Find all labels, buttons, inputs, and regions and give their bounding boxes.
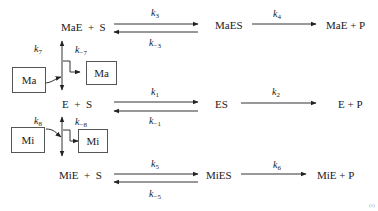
rate-k-7: k−7	[75, 44, 87, 59]
arrow-Mi-in	[46, 129, 61, 137]
rate-k1: k1	[151, 86, 159, 101]
rate-k-3: k−3	[149, 37, 161, 52]
activator-box-in: Ma	[12, 67, 46, 93]
inhibitor-box-in: Mi	[11, 127, 45, 153]
rate-k4: k4	[273, 8, 281, 23]
inhibitor-box-out: Mi	[78, 129, 108, 153]
rate-k7: k7	[34, 43, 42, 58]
rate-k5: k5	[151, 158, 159, 173]
arrow-Ma-out	[63, 61, 80, 72]
corner-mark: (1)	[369, 203, 375, 208]
species-E-plus-S: E + S	[62, 98, 92, 110]
complex-MaES: MaES	[215, 19, 243, 31]
product-MiE-plus-P: MiE + P	[317, 169, 354, 181]
rate-k-1: k−1	[149, 115, 161, 130]
species-MiE-plus-S: MiE + S	[59, 169, 102, 181]
complex-MiES: MiES	[206, 169, 232, 181]
rate-k2: k2	[272, 86, 280, 101]
complex-ES: ES	[215, 98, 228, 110]
rate-k6: k6	[273, 159, 281, 174]
rate-k3: k3	[151, 7, 159, 22]
rate-k-5: k−5	[149, 188, 161, 203]
species-MaE-plus-S: MaE + S	[61, 21, 106, 33]
arrow-Mi-out	[63, 130, 78, 141]
activator-box-out: Ma	[86, 61, 117, 85]
product-E-plus-P: E + P	[338, 98, 363, 110]
arrow-Ma-in	[44, 77, 61, 83]
product-MaE-plus-P: MaE + P	[326, 19, 365, 31]
